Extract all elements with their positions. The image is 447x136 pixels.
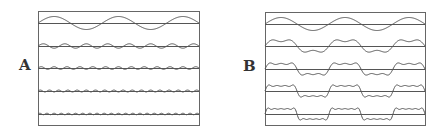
- panel-a-harmonics: [38, 12, 200, 126]
- panel-b-partial-sums: [265, 13, 426, 126]
- figure: A B: [0, 0, 447, 136]
- plot-canvas: [0, 0, 447, 136]
